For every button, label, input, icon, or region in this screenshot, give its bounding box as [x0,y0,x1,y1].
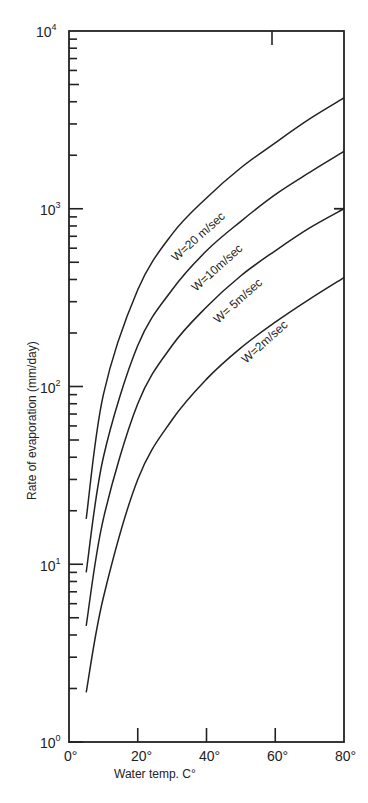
series-line-3 [86,278,344,693]
y-tick-label-3: 103 [40,200,61,218]
series-curves [86,98,344,692]
evaporation-chart: 100 101 102 103 104 0° 20° 40° 60° 80° W… [0,0,368,803]
y-tick-label-0: 100 [40,733,61,751]
x-tick-label-0: 0° [64,748,77,764]
series-label-w5: W= 5m/sec [211,275,265,326]
y-tick-labels: 100 101 102 103 104 [36,22,61,751]
series-line-0 [86,98,344,519]
x-axis-ticks [138,31,276,742]
x-tick-label-80: 80° [335,748,356,764]
y-tick-label-2: 102 [40,378,61,396]
series-label-w10: W=10m/sec [189,241,246,294]
x-tick-label-60: 60° [267,748,288,764]
y-tick-label-1: 101 [40,556,61,574]
y-axis-ticks [69,39,344,742]
plot-frame [69,31,344,742]
y-tick-label-4: 104 [36,22,57,40]
x-tick-labels: 0° 20° 40° 60° 80° [64,748,356,764]
x-axis-title: Water temp. C° [114,767,196,781]
series-label-w2: W=2m/sec [239,318,291,367]
y-axis-title: Rate of evaporation (mm/day) [25,341,39,500]
x-tick-label-40: 40° [199,748,220,764]
x-tick-label-20: 20° [131,748,152,764]
